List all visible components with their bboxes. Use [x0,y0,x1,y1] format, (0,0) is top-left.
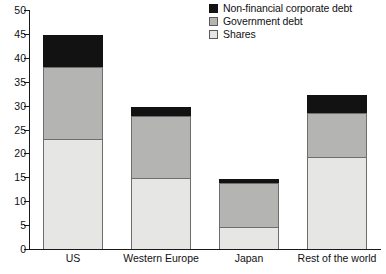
bar-segment-shares [43,139,103,249]
bar-segment-government-debt [43,67,103,139]
plot-area: 05101520253035404550 [29,10,381,250]
y-tick-label: 40 [14,52,26,63]
bar-segment-shares [219,227,279,249]
y-tick-label: 50 [14,5,26,16]
bar-segment-non-financial-corporate-debt [219,179,279,183]
bar-us [43,35,103,249]
x-axis-label-japan: Japan [235,252,264,264]
bar-segment-government-debt [219,183,279,226]
bar-rest-of-the-world [307,95,367,249]
y-tick-label: 35 [14,76,26,87]
y-tick-label: 0 [20,244,26,255]
y-tick-label: 30 [14,100,26,111]
x-axis-label-rest-of-the-world: Rest of the world [298,252,377,264]
bar-segment-government-debt [131,116,191,179]
y-tick-label: 25 [14,124,26,135]
y-tick-label: 15 [14,172,26,183]
bar-segment-shares [131,178,191,249]
y-tick-label: 20 [14,148,26,159]
bar-segment-non-financial-corporate-debt [131,107,191,116]
x-axis-line [29,249,381,250]
bar-segment-government-debt [307,113,367,156]
y-tick-label: 45 [14,28,26,39]
bar-japan [219,179,279,249]
x-axis-label-western-europe: Western Europe [123,252,199,264]
bar-western-europe [131,107,191,249]
bar-segment-non-financial-corporate-debt [307,95,367,113]
bar-segment-shares [307,157,367,249]
y-axis-line [29,10,30,250]
bar-segment-non-financial-corporate-debt [43,35,103,68]
stacked-bar-chart: Non-financial corporate debt Government … [0,0,386,274]
x-axis-label-us: US [66,252,81,264]
y-tick-label: 5 [20,220,26,231]
y-tick-label: 10 [14,196,26,207]
